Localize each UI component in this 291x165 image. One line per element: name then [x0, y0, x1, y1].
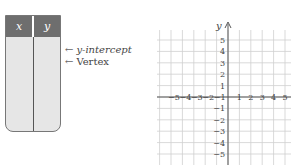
y-tick-label: −3 [213, 127, 225, 136]
y-tick-label: −1 [213, 104, 225, 113]
x-tick-label: 2 [248, 93, 253, 102]
y-axis-label: y [215, 20, 222, 31]
x-tick-label: −4 [180, 93, 192, 102]
x-tick-label: 3 [260, 93, 265, 102]
y-tick-label: −2 [213, 116, 225, 125]
y-tick-label: −5 [213, 150, 225, 159]
x-tick-label: 4 [271, 93, 276, 102]
y-tick-label: 2 [220, 70, 225, 79]
y-tick-label: 1 [220, 82, 225, 91]
y-tick-label: −4 [213, 139, 225, 148]
x-tick-label: −2 [202, 93, 214, 102]
y-tick-label: 3 [220, 59, 225, 68]
y-tick-label: 5 [220, 36, 225, 45]
coordinate-grid: y −5−4−3−2−112345 54321−1−2−3−4−5 [0, 0, 291, 165]
x-tick-label: −1 [214, 93, 226, 102]
x-tick-label: −5 [168, 93, 180, 102]
x-tick-label: 5 [282, 93, 287, 102]
x-tick-label: 1 [237, 93, 242, 102]
y-tick-label: 4 [220, 47, 225, 56]
x-tick-label: −3 [191, 93, 203, 102]
